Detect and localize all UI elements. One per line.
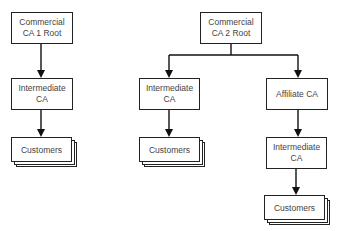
- affiliate-ca-node: Affiliate CA: [266, 78, 328, 110]
- left-intermediate-ca-node: Intermediate CA: [11, 78, 73, 110]
- left-customers-node: Customers: [11, 137, 72, 162]
- right-intermediate-ca-node: Intermediate CA: [266, 137, 327, 169]
- left-customers-stack: Customers: [11, 137, 79, 168]
- middle-customers-node: Customers: [139, 137, 200, 162]
- right-customers-node: Customers: [264, 195, 325, 220]
- middle-customers-stack: Customers: [139, 137, 207, 168]
- middle-intermediate-ca-node: Intermediate CA: [139, 78, 200, 110]
- right-customers-stack: Customers: [264, 195, 332, 226]
- commercial-ca1-root-node: Commercial CA 1 Root: [11, 12, 73, 44]
- commercial-ca2-root-node: Commercial CA 2 Root: [200, 12, 262, 44]
